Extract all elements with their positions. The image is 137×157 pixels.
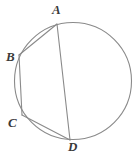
vertex-label-b: B [6,50,15,63]
vertex-label-d: D [68,140,77,153]
chord-CD [22,115,70,140]
chord-AB [19,24,57,55]
chord-AD [57,24,70,140]
circumscribed-circle [15,23,132,140]
vertex-label-a: A [52,3,61,16]
geometry-figure: A B C D [0,0,137,157]
figure-canvas [0,0,137,157]
vertex-label-c: C [8,116,17,129]
